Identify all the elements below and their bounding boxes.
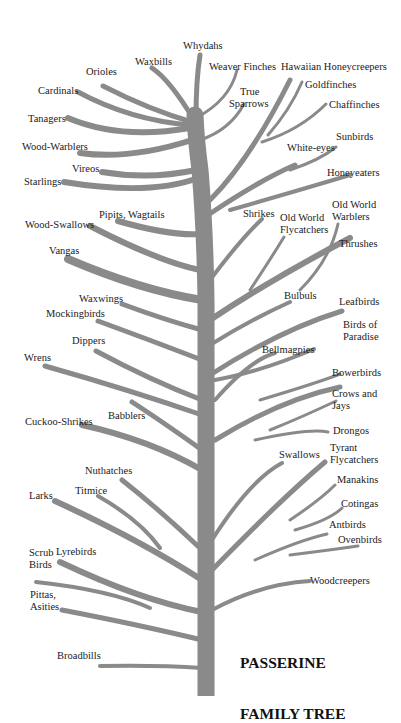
label-shrikes: Shrikes xyxy=(243,208,275,220)
label-old-world-flycatchers-2: Flycatchers xyxy=(280,224,328,236)
label-old-world-flycatchers-1: Old World xyxy=(280,212,324,224)
label-tyrant-flycatchers-2: Flycatchers xyxy=(330,454,378,466)
label-wood-warblers: Wood-Warblers xyxy=(22,141,88,153)
label-starlings: Starlings xyxy=(24,176,61,188)
label-orioles: Orioles xyxy=(86,66,117,78)
label-bulbuls: Bulbuls xyxy=(284,290,317,302)
label-weaver-finches: Weaver Finches xyxy=(209,61,276,73)
label-goldfinches: Goldfinches xyxy=(305,79,356,91)
label-true-sparrows-1: True xyxy=(240,86,259,98)
label-sunbirds: Sunbirds xyxy=(336,131,373,143)
label-bellmagpies: Bellmagpies xyxy=(262,344,315,356)
label-whydahs: Whydahs xyxy=(183,40,223,52)
label-waxbills: Waxbills xyxy=(135,56,172,68)
title-line-2: FAMILY TREE xyxy=(240,705,346,722)
label-woodcreepers: Woodcreepers xyxy=(310,575,370,587)
title-line-1: PASSERINE xyxy=(240,654,346,671)
label-drongos: Drongos xyxy=(333,425,369,437)
label-antbirds: Antbirds xyxy=(329,519,366,531)
label-cotingas: Cotingas xyxy=(341,498,378,510)
label-scrub-birds-2: Birds xyxy=(29,559,52,571)
label-mockingbirds: Mockingbirds xyxy=(46,308,105,320)
label-birds-of-paradise-2: Paradise xyxy=(343,331,379,343)
label-vangas: Vangas xyxy=(49,245,79,257)
label-tyrant-flycatchers-1: Tyrant xyxy=(330,442,357,454)
label-wrens: Wrens xyxy=(24,352,51,364)
label-pipits-wagtails: Pipits, Wagtails xyxy=(99,209,164,221)
label-white-eyes: White-eyes xyxy=(287,142,335,154)
label-thrushes: Thrushes xyxy=(339,238,378,250)
label-old-world-warblers-1: Old World xyxy=(332,199,376,211)
label-crows-and-jays-1: Crows and xyxy=(332,388,377,400)
label-pittas-asities-2: Asities xyxy=(30,601,59,613)
label-babblers: Babblers xyxy=(108,410,145,422)
label-birds-of-paradise-1: Birds of xyxy=(343,319,377,331)
label-ovenbirds: Ovenbirds xyxy=(338,534,382,546)
label-titmice: Titmice xyxy=(75,485,107,497)
label-vireos: Vireos xyxy=(72,163,99,175)
label-true-sparrows-2: Sparrows xyxy=(229,98,269,110)
label-dippers: Dippers xyxy=(72,335,105,347)
label-crows-and-jays-2: Jays xyxy=(332,400,350,412)
label-lyrebirds: Lyrebirds xyxy=(56,546,96,558)
label-honeyeaters: Honeyeaters xyxy=(327,167,379,179)
label-wood-swallows: Wood-Swallows xyxy=(25,219,94,231)
label-broadbills: Broadbills xyxy=(57,650,101,662)
label-bowerbirds: Bowerbirds xyxy=(332,367,381,379)
label-nuthatches: Nuthatches xyxy=(85,465,132,477)
label-waxwings: Waxwings xyxy=(79,293,123,305)
label-tanagers: Tanagers xyxy=(28,113,66,125)
label-cuckoo-shrikes: Cuckoo-Shrikes xyxy=(25,416,93,428)
label-manakins: Manakins xyxy=(337,474,378,486)
label-larks: Larks xyxy=(29,490,53,502)
label-leafbirds: Leafbirds xyxy=(339,296,379,308)
label-old-world-warblers-2: Warblers xyxy=(332,211,370,223)
label-cardinals: Cardinals xyxy=(38,85,78,97)
label-hawaiian-honeycreepers: Hawaiian Honeycreepers xyxy=(281,61,387,73)
label-pittas-asities-1: Pittas, xyxy=(30,589,56,601)
label-swallows: Swallows xyxy=(279,449,320,461)
label-chaffinches: Chaffinches xyxy=(329,99,380,111)
diagram-title: PASSERINE FAMILY TREE xyxy=(240,620,346,723)
label-scrub-birds-1: Scrub xyxy=(29,547,54,559)
